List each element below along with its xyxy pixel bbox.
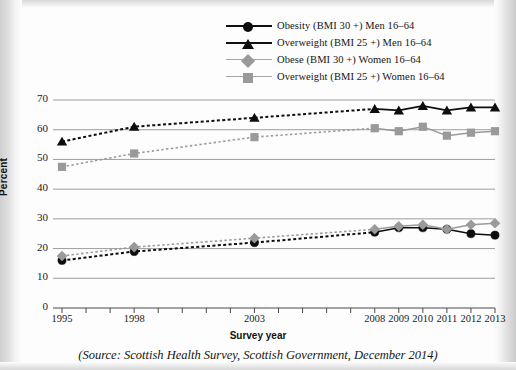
legend-item-label: Obesity (BMI 30 +) Men 16–64: [277, 20, 414, 31]
y-tick-label: 30: [24, 211, 48, 223]
series-line-dotted: [62, 229, 375, 256]
legend-item: Obese (BMI 30 +) Women 16–64: [226, 51, 494, 68]
y-tick-label: 60: [24, 122, 48, 134]
chart-legend: Obesity (BMI 30 +) Men 16–64Overweight (…: [226, 17, 494, 85]
legend-item: Overweight (BMI 25 +) Men 16–64: [226, 34, 494, 51]
legend-key: [226, 19, 272, 33]
source-caption: (Source: Scottish Health Survey, Scottis…: [0, 348, 516, 363]
data-point: [490, 218, 501, 229]
data-point: [250, 133, 258, 141]
x-tick-label: 1995: [45, 313, 79, 324]
series-line-solid: [375, 106, 495, 111]
y-tick-label: 20: [24, 241, 48, 253]
data-point: [58, 163, 66, 171]
triangle-dark-icon: [242, 39, 254, 49]
square-light-icon: [243, 73, 253, 83]
series-line-dotted: [62, 232, 375, 260]
y-tick-label: 70: [24, 92, 48, 104]
series-triangle: [57, 101, 500, 146]
data-point: [443, 132, 451, 140]
x-tick-label: 2003: [237, 313, 271, 324]
legend-item-label: Overweight (BMI 25 +) Men 16–64: [277, 37, 432, 48]
series-line-solid: [375, 228, 495, 235]
y-tick-label: 40: [24, 181, 48, 193]
circle-dark-icon: [243, 22, 253, 32]
data-point: [467, 129, 475, 137]
legend-key: [226, 53, 272, 67]
x-tick-label: 2013: [478, 313, 512, 324]
data-point: [466, 220, 477, 231]
legend-item: Overweight (BMI 25 +) Women 16–64: [226, 68, 494, 85]
y-tick-label: 10: [24, 270, 48, 282]
data-point: [130, 149, 138, 157]
legend-item-label: Obese (BMI 30 +) Women 16–64: [277, 54, 421, 65]
series-line-solid: [375, 127, 495, 136]
data-point: [442, 224, 453, 235]
y-axis-title: Percent: [0, 158, 9, 196]
x-tick-label: 1998: [117, 313, 151, 324]
data-point: [419, 123, 427, 131]
x-axis-title: Survey year: [0, 330, 516, 341]
y-tick-label: 50: [24, 151, 48, 163]
series-line-dotted: [62, 128, 375, 167]
legend-item-label: Overweight (BMI 25 +) Women 16–64: [277, 71, 445, 82]
series-circle: [58, 224, 499, 265]
legend-key: [226, 70, 272, 84]
data-point: [57, 137, 67, 146]
data-point: [418, 101, 428, 110]
data-point: [491, 127, 499, 135]
legend-key: [226, 36, 272, 50]
series-line-dotted: [62, 109, 375, 142]
data-point: [491, 231, 499, 239]
diamond-light-icon: [241, 53, 255, 67]
y-axis-ticks: [53, 100, 62, 308]
data-point: [371, 124, 379, 132]
y-tick-label: 0: [24, 300, 48, 312]
legend-item: Obesity (BMI 30 +) Men 16–64: [226, 17, 494, 34]
data-point: [467, 230, 475, 238]
data-point: [395, 127, 403, 135]
